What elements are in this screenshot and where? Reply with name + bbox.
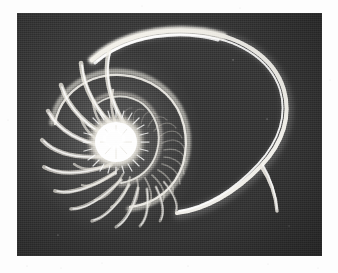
nautilus-illustration bbox=[17, 13, 322, 256]
photo-page bbox=[0, 0, 338, 273]
nautilus-photograph bbox=[17, 13, 322, 256]
